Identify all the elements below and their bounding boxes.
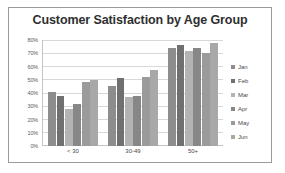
legend-swatch-icon bbox=[231, 65, 235, 69]
bar-jan-0[interactable] bbox=[48, 92, 56, 146]
x-axis-tick-label: 30-49 bbox=[103, 148, 163, 154]
bar-set bbox=[108, 40, 158, 146]
y-axis-tick-label: 30% bbox=[28, 103, 38, 109]
legend-item-jun[interactable]: Jun bbox=[231, 130, 275, 144]
legend-label: Mar bbox=[238, 92, 248, 98]
bar-set bbox=[168, 40, 218, 146]
legend-swatch-icon bbox=[231, 93, 235, 97]
legend-item-apr[interactable]: Apr bbox=[231, 102, 275, 116]
bar-apr-0[interactable] bbox=[73, 104, 81, 146]
legend-swatch-icon bbox=[231, 107, 235, 111]
bar-group bbox=[163, 40, 223, 146]
y-axis-tick-label: 60% bbox=[28, 64, 38, 70]
x-axis-tick-label: 50+ bbox=[163, 148, 223, 154]
bar-jan-2[interactable] bbox=[168, 48, 176, 146]
legend-label: Feb bbox=[238, 78, 248, 84]
bar-feb-0[interactable] bbox=[57, 96, 65, 146]
bar-may-2[interactable] bbox=[202, 53, 210, 146]
y-axis: 80%70%60%50%40%30%20%10%0% bbox=[9, 40, 40, 146]
chart-container: Customer Satisfaction by Age Group 80%70… bbox=[8, 7, 272, 163]
y-axis-tick-label: 10% bbox=[28, 130, 38, 136]
bar-may-1[interactable] bbox=[142, 77, 150, 146]
legend-swatch-icon bbox=[231, 79, 235, 83]
y-axis-tick-label: 70% bbox=[28, 50, 38, 56]
legend-item-jan[interactable]: Jan bbox=[231, 60, 275, 74]
bar-jan-1[interactable] bbox=[108, 86, 116, 146]
bar-feb-2[interactable] bbox=[177, 45, 185, 146]
y-axis-tick-label: 50% bbox=[28, 77, 38, 83]
bar-apr-2[interactable] bbox=[193, 48, 201, 146]
legend-item-may[interactable]: May bbox=[231, 116, 275, 130]
bar-jun-1[interactable] bbox=[150, 70, 158, 146]
bar-apr-1[interactable] bbox=[133, 96, 141, 146]
bar-may-0[interactable] bbox=[82, 82, 90, 146]
bar-jun-0[interactable] bbox=[90, 80, 98, 146]
legend-swatch-icon bbox=[231, 121, 235, 125]
y-axis-tick-label: 80% bbox=[28, 37, 38, 43]
legend-label: May bbox=[238, 120, 249, 126]
x-axis: < 3030-4950+ bbox=[43, 148, 223, 154]
bar-mar-2[interactable] bbox=[185, 51, 193, 146]
legend-swatch-icon bbox=[231, 135, 235, 139]
bar-set bbox=[48, 40, 98, 146]
bar-group bbox=[43, 40, 103, 146]
chart-title: Customer Satisfaction by Age Group bbox=[9, 13, 271, 27]
bar-mar-0[interactable] bbox=[65, 109, 73, 146]
y-axis-tick-label: 0% bbox=[30, 143, 38, 149]
bar-groups bbox=[43, 40, 223, 146]
x-axis-tick-label: < 30 bbox=[43, 148, 103, 154]
y-axis-tick-label: 40% bbox=[28, 90, 38, 96]
legend-label: Jun bbox=[238, 134, 248, 140]
bar-feb-1[interactable] bbox=[117, 78, 125, 146]
legend-item-mar[interactable]: Mar bbox=[231, 88, 275, 102]
legend-item-feb[interactable]: Feb bbox=[231, 74, 275, 88]
bar-jun-2[interactable] bbox=[210, 43, 218, 146]
bar-mar-1[interactable] bbox=[125, 97, 133, 146]
y-axis-tick-label: 20% bbox=[28, 117, 38, 123]
legend-label: Apr bbox=[238, 106, 247, 112]
legend: JanFebMarAprMayJun bbox=[231, 60, 275, 144]
bar-group bbox=[103, 40, 163, 146]
legend-label: Jan bbox=[238, 64, 248, 70]
